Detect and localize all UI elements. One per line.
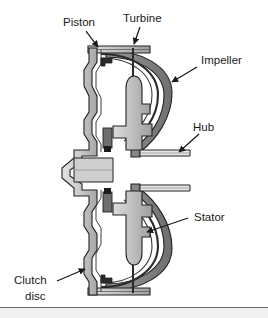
clutch-friction-block-top bbox=[103, 128, 112, 148]
label-hub: Hub bbox=[193, 121, 214, 133]
label-clutch-line1: Clutch bbox=[14, 274, 47, 286]
output-shaft-neck bbox=[74, 158, 113, 182]
label-clutch-line2: disc bbox=[25, 290, 46, 302]
label-stator: Stator bbox=[194, 211, 225, 223]
label-piston: Piston bbox=[63, 16, 95, 28]
label-turbine: Turbine bbox=[123, 12, 162, 24]
torque-converter-figure: Piston Turbine Impeller Hub Stator Clutc… bbox=[0, 0, 268, 318]
clutch-friction-block-bottom bbox=[103, 192, 112, 212]
torque-converter-diagram: Piston Turbine Impeller Hub Stator Clutc… bbox=[0, 0, 268, 318]
footer-band bbox=[0, 308, 268, 318]
label-impeller: Impeller bbox=[201, 54, 242, 66]
